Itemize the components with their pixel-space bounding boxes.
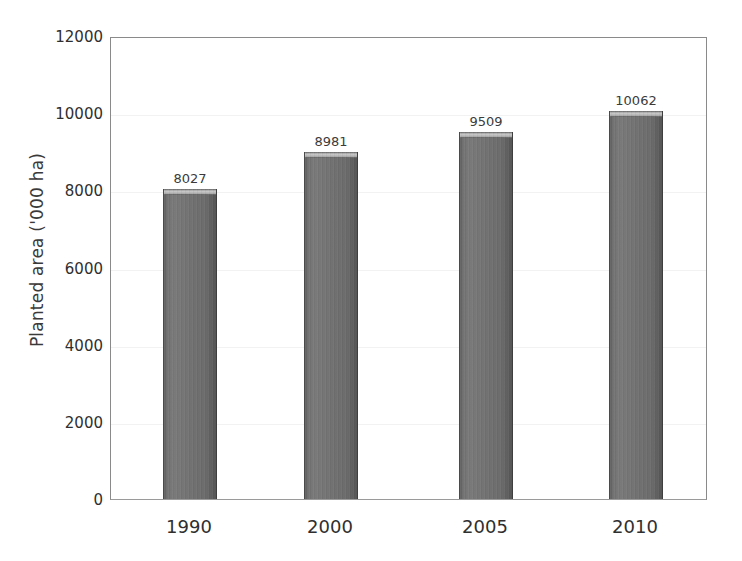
bar-top-highlight (164, 189, 216, 195)
bar-value-label: 8981 (314, 134, 347, 149)
bar-chart: Planted area ('000 ha) 02000400060008000… (0, 0, 742, 561)
bar-texture (305, 152, 357, 499)
y-tick-label: 6000 (40, 260, 103, 278)
plot-area: 80278981950910062 (110, 37, 707, 500)
y-tick-label: 0 (40, 491, 103, 509)
bar-top-highlight (610, 111, 662, 117)
x-tick-label: 1990 (166, 516, 212, 537)
y-tick-label: 10000 (40, 105, 103, 123)
y-axis-tick-labels: 020004000600080001000012000 (40, 0, 103, 561)
y-tick-label: 8000 (40, 182, 103, 200)
y-tick-label: 4000 (40, 337, 103, 355)
y-tick-label: 12000 (40, 28, 103, 46)
bar-texture (164, 189, 216, 499)
bar-value-label: 8027 (173, 171, 206, 186)
bar-value-label: 10062 (615, 93, 656, 108)
bar[interactable] (459, 132, 513, 499)
bar-top-highlight (305, 152, 357, 158)
bar[interactable] (163, 189, 217, 499)
y-tick-label: 2000 (40, 414, 103, 432)
x-tick-label: 2010 (612, 516, 658, 537)
bar-value-label: 9509 (469, 114, 502, 129)
bar[interactable] (304, 152, 358, 499)
x-tick-label: 2005 (462, 516, 508, 537)
bar[interactable] (609, 111, 663, 499)
x-tick-label: 2000 (307, 516, 353, 537)
bar-texture (610, 111, 662, 499)
bar-texture (460, 132, 512, 499)
bar-top-highlight (460, 132, 512, 138)
